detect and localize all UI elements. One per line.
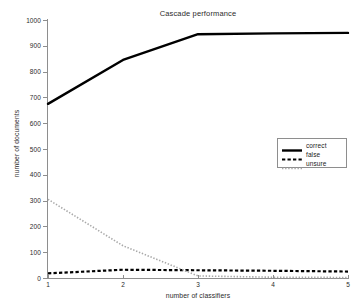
- x-axis-tick-label: 4: [264, 281, 282, 289]
- y-axis-tick-label: 0: [15, 275, 41, 282]
- legend-item-correct[interactable]: correct: [278, 141, 348, 150]
- chart-figure: Cascade performance 01002003004005006007…: [0, 0, 364, 307]
- y-axis-tick-label: 1000: [15, 17, 41, 24]
- legend-swatch-false-icon: [282, 150, 302, 159]
- y-axis-tick-label: 900: [15, 42, 41, 49]
- series-line-unsure: [48, 199, 348, 277]
- x-axis-tick-label: 5: [339, 281, 357, 289]
- series-line-false: [48, 270, 348, 274]
- page-bleed-text: [0, 0, 364, 9]
- legend-label-correct: correct: [306, 142, 327, 150]
- legend-swatch-correct-icon: [282, 141, 302, 150]
- x-axis-tick-label: 1: [39, 281, 57, 289]
- y-axis-tick-label: 200: [15, 223, 41, 230]
- x-axis-tick-label: 3: [189, 281, 207, 289]
- series-line-correct: [48, 33, 348, 104]
- y-axis-label: number of documents: [13, 89, 20, 199]
- x-axis-label: number of classifiers: [48, 292, 348, 299]
- legend-label-unsure: unsure: [306, 160, 326, 168]
- chart-legend: correctfalseunsure: [277, 138, 347, 168]
- legend-item-unsure[interactable]: unsure: [278, 159, 348, 168]
- y-axis-tick-label: 100: [15, 249, 41, 256]
- x-axis-tick-label: 2: [114, 281, 132, 289]
- x-axis-tick: [348, 275, 349, 279]
- legend-item-false[interactable]: false: [278, 150, 348, 159]
- y-axis-tick-label: 800: [15, 68, 41, 75]
- chart-title: Cascade performance: [48, 9, 348, 18]
- legend-label-false: false: [306, 151, 320, 159]
- legend-swatch-unsure-icon: [282, 159, 302, 168]
